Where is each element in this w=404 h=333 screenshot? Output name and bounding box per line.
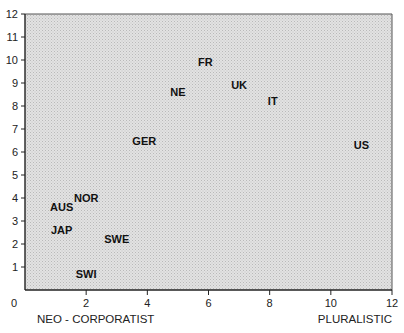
point-label-uk: UK bbox=[231, 79, 247, 91]
x-tick-label: 0 bbox=[11, 297, 17, 309]
y-tick-label: 11 bbox=[7, 31, 18, 43]
x-tick-label: 6 bbox=[205, 297, 211, 309]
x-tick-label: 4 bbox=[144, 297, 150, 309]
x-tick-label: 8 bbox=[267, 297, 273, 309]
y-tick-label: 12 bbox=[6, 8, 18, 20]
y-tick-label: 9 bbox=[12, 77, 18, 89]
y-axis: 123456789101112 bbox=[6, 8, 25, 273]
point-label-us: US bbox=[354, 139, 369, 151]
point-label-swe: SWE bbox=[104, 233, 129, 245]
x-axis: 024681012 bbox=[11, 290, 398, 309]
y-tick-label: 10 bbox=[6, 54, 18, 66]
y-tick-label: 2 bbox=[12, 238, 18, 250]
x-tick-label: 10 bbox=[325, 297, 337, 309]
scatter-chart: 123456789101112 024681012 FRUKNEITGERUSN… bbox=[0, 0, 404, 333]
point-label-fr: FR bbox=[198, 56, 213, 68]
point-label-swi: SWI bbox=[76, 268, 97, 280]
point-label-ger: GER bbox=[132, 135, 156, 147]
point-label-nor: NOR bbox=[74, 192, 99, 204]
point-label-it: IT bbox=[268, 95, 278, 107]
y-tick-label: 4 bbox=[12, 192, 18, 204]
y-tick-label: 6 bbox=[12, 146, 18, 158]
x-tick-label: 12 bbox=[386, 297, 398, 309]
y-tick-label: 1 bbox=[12, 261, 18, 273]
x-axis-title-left: NEO - CORPORATIST bbox=[37, 313, 154, 325]
point-label-jap: JAP bbox=[51, 224, 72, 236]
y-tick-label: 5 bbox=[12, 169, 18, 181]
y-tick-label: 7 bbox=[12, 123, 18, 135]
point-label-aus: AUS bbox=[50, 201, 73, 213]
y-tick-label: 8 bbox=[12, 100, 18, 112]
x-axis-title-right: PLURALISTIC bbox=[318, 313, 392, 325]
y-tick-label: 3 bbox=[12, 215, 18, 227]
point-label-ne: NE bbox=[170, 86, 185, 98]
x-tick-label: 2 bbox=[83, 297, 89, 309]
